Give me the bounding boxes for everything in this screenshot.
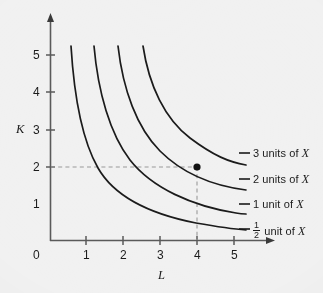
isoquant-curves-group [71, 46, 246, 230]
isoquant-one-unit [94, 46, 246, 214]
x-tick-label-1: 1 [83, 248, 90, 262]
curve-label-one-unit-variable: X [296, 197, 303, 211]
x-tick-label-5: 5 [231, 248, 238, 262]
curve-label-half-unit: 1 2 unit of X [253, 221, 306, 240]
y-tick-label-1: 1 [33, 197, 40, 211]
y-tick-label-5: 5 [33, 48, 40, 62]
y-tick-label-4: 4 [33, 85, 40, 99]
x-tick-label-3: 3 [157, 248, 164, 262]
guide-lines-group [51, 167, 197, 240]
curve-label-half-unit-variable: X [298, 224, 305, 238]
curve-label-three-units-variable: X [302, 146, 309, 160]
curve-label-three-units-text: 3 units of [253, 147, 302, 159]
y-axis-title: K [16, 122, 24, 137]
fraction-numerator: 1 [253, 221, 260, 230]
curve-label-two-units-variable: X [302, 172, 309, 186]
curve-label-two-units: 2 units of X [253, 172, 309, 187]
one-half-fraction: 1 2 [253, 221, 260, 240]
y-axis-arrow [47, 13, 54, 22]
fraction-denominator: 2 [253, 230, 260, 240]
x-tick-label-4: 4 [194, 248, 201, 262]
y-tick-label-2: 2 [33, 160, 40, 174]
curve-label-two-units-text: 2 units of [253, 173, 302, 185]
curve-label-half-unit-text: unit of [261, 225, 298, 237]
x-axis-title: L [158, 268, 165, 283]
curve-label-one-unit: 1 unit of X [253, 197, 304, 212]
curve-label-one-unit-text: 1 unit of [253, 198, 296, 210]
curve-label-three-units: 3 units of X [253, 146, 309, 161]
x-tick-label-2: 2 [120, 248, 127, 262]
origin-label: 0 [33, 248, 40, 262]
axes-group [47, 13, 275, 244]
y-tick-label-3: 3 [33, 123, 40, 137]
isoquant-three-units [143, 46, 246, 165]
equilibrium-point-marker [193, 163, 200, 170]
